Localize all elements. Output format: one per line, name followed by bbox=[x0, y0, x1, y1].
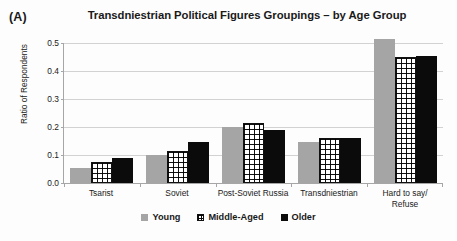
y-tick-label: 0.5 bbox=[47, 38, 59, 48]
bar-older[interactable] bbox=[188, 142, 209, 183]
plot-area: 0.50.40.30.20.10.0 bbox=[63, 43, 443, 183]
chart-title: Transdniestrian Political Figures Groupi… bbox=[52, 9, 442, 21]
bar-middle[interactable] bbox=[395, 57, 416, 183]
y-axis-title: Ratio of Respondents bbox=[19, 29, 29, 139]
bar-young[interactable] bbox=[146, 155, 167, 183]
bar-group bbox=[291, 43, 367, 183]
legend-item-middle[interactable]: Middle-Aged bbox=[197, 212, 263, 222]
legend-label: Older bbox=[292, 212, 316, 222]
y-tick-label: 0.3 bbox=[47, 94, 59, 104]
bar-middle[interactable] bbox=[243, 123, 264, 183]
bar-group bbox=[64, 43, 140, 183]
legend-swatch-icon bbox=[281, 214, 288, 221]
legend-swatch-icon bbox=[141, 214, 148, 221]
gridline bbox=[64, 183, 443, 184]
bar-older[interactable] bbox=[112, 158, 133, 183]
y-tick-label: 0.0 bbox=[47, 178, 59, 188]
bar-group bbox=[140, 43, 216, 183]
bar-group bbox=[216, 43, 292, 183]
bar-older[interactable] bbox=[264, 130, 285, 183]
bar-middle[interactable] bbox=[319, 138, 340, 183]
y-tick-label: 0.4 bbox=[47, 66, 59, 76]
bars-layer bbox=[64, 43, 443, 183]
bar-group bbox=[367, 43, 443, 183]
figure-panel-a: (A) Transdniestrian Political Figures Gr… bbox=[0, 0, 457, 241]
panel-label: (A) bbox=[9, 10, 27, 24]
bar-older[interactable] bbox=[340, 138, 361, 183]
bar-older[interactable] bbox=[416, 56, 437, 183]
legend-item-older[interactable]: Older bbox=[281, 212, 316, 222]
bar-young[interactable] bbox=[374, 39, 395, 183]
bar-middle[interactable] bbox=[91, 162, 112, 183]
legend-item-young[interactable]: Young bbox=[141, 212, 180, 222]
bar-middle[interactable] bbox=[167, 151, 188, 183]
bar-young[interactable] bbox=[70, 168, 91, 183]
y-tick-label: 0.1 bbox=[47, 150, 59, 160]
legend-swatch-icon bbox=[197, 214, 204, 221]
legend: YoungMiddle-AgedOlder bbox=[0, 212, 457, 222]
y-tick-label: 0.2 bbox=[47, 122, 59, 132]
bar-young[interactable] bbox=[222, 127, 243, 183]
legend-label: Middle-Aged bbox=[208, 212, 263, 222]
legend-label: Young bbox=[152, 212, 180, 222]
bar-young[interactable] bbox=[298, 142, 319, 183]
